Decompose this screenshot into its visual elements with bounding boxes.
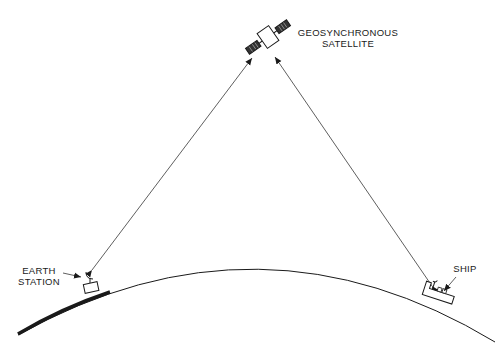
satellite-label-line1: GEOSYNCHRONOUS (292, 27, 404, 38)
uplink-earth-station (92, 58, 252, 270)
satellite-label-line2: SATELLITE (292, 38, 404, 49)
ship-label: SHIP (450, 263, 480, 274)
satellite-icon (242, 15, 293, 58)
land-segment (18, 292, 110, 334)
earth-station-label-line1: EARTH (16, 265, 62, 276)
ship-pointer (444, 277, 456, 291)
earth-station-label-line2: STATION (16, 276, 62, 287)
diagram-canvas (0, 0, 496, 352)
uplink-ship (275, 57, 432, 286)
earth-station-pointer (63, 273, 81, 277)
earth-station-icon (83, 272, 99, 293)
satellite-label: GEOSYNCHRONOUS SATELLITE (292, 27, 404, 49)
earth-station-label: EARTH STATION (16, 265, 62, 287)
